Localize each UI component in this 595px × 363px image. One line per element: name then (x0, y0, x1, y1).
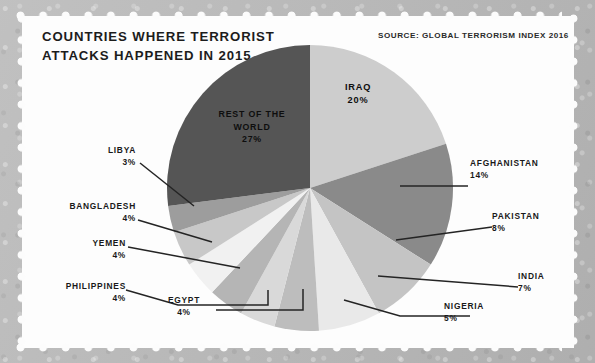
callout-egypt: EGYPT 4% (155, 295, 213, 318)
callout-bangladesh-pct: 4% (32, 213, 136, 225)
callout-nigeria-pct: 5% (444, 313, 484, 325)
callout-india: INDIA 7% (518, 271, 545, 294)
callout-yemen: YEMEN 4% (32, 238, 126, 261)
callout-afghanistan-pct: 14% (470, 170, 539, 182)
callout-yemen-pct: 4% (32, 250, 126, 262)
slice-label-iraq: IRAQ 20% (327, 81, 389, 106)
callout-yemen-name: YEMEN (92, 238, 126, 248)
callout-libya-name: LIBYA (108, 145, 136, 155)
callout-india-pct: 7% (518, 283, 545, 295)
callout-egypt-pct: 4% (155, 307, 213, 319)
callout-afghanistan-name: AFGHANISTAN (470, 158, 539, 168)
callout-libya-pct: 3% (48, 157, 136, 169)
callout-egypt-name: EGYPT (168, 295, 200, 305)
callout-philippines: PHILIPPINES 4% (32, 281, 126, 304)
perforation-edge-right (569, 14, 578, 350)
callout-bangladesh-name: BANGLADESH (69, 201, 136, 211)
callout-pakistan-pct: 8% (492, 223, 540, 235)
callout-nigeria: NIGERIA 5% (444, 301, 484, 324)
perforation-edge-left (17, 14, 26, 350)
callout-philippines-name: PHILIPPINES (66, 281, 126, 291)
callout-pakistan: PAKISTAN 8% (492, 211, 540, 234)
perforation-edge-top (16, 11, 562, 20)
callout-libya: LIBYA 3% (48, 145, 136, 168)
callout-india-name: INDIA (518, 271, 545, 281)
perforation-edge-bottom (16, 343, 562, 352)
callout-bangladesh: BANGLADESH 4% (32, 201, 136, 224)
callout-nigeria-name: NIGERIA (444, 301, 484, 311)
infographic-poster: COUNTRIES WHERE TERRORIST ATTACKS HAPPEN… (0, 0, 595, 363)
callout-pakistan-name: PAKISTAN (492, 211, 540, 221)
source-credit: SOURCE: GLOBAL TERRORISM INDEX 2016 (378, 31, 569, 40)
callout-philippines-pct: 4% (32, 293, 126, 305)
slice-label-rest-of-world: REST OF THE WORLD 27% (196, 108, 308, 146)
page-title: COUNTRIES WHERE TERRORIST ATTACKS HAPPEN… (42, 27, 275, 65)
callout-afghanistan: AFGHANISTAN 14% (470, 158, 539, 181)
